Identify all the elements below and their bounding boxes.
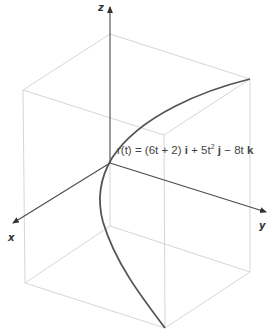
eq-term-j: 5t2 (201, 144, 215, 156)
x-axis (13, 163, 110, 223)
eq-unit-j: j (218, 144, 221, 156)
eq-minus: − (224, 144, 231, 156)
eq-term-i: (6t + 2) (145, 144, 182, 156)
y-axis-label: y (259, 220, 266, 231)
curve-equation-label: r(t) = (6t + 2) i + 5t2 j − 8t k (117, 143, 253, 156)
eq-equals: = (135, 144, 142, 156)
z-axis-label: z (97, 2, 104, 13)
eq-lhs: r(t) (117, 144, 132, 156)
space-curve-figure: z x y (0, 0, 275, 334)
x-axis-label: x (7, 232, 15, 243)
eq-plus: + (191, 144, 198, 156)
axes (13, 7, 266, 223)
bounding-box (23, 34, 250, 328)
eq-unit-i: i (185, 144, 188, 156)
y-axis (110, 163, 266, 212)
eq-unit-k: k (247, 144, 253, 156)
eq-term-k: 8t (234, 144, 244, 156)
space-curve (100, 79, 250, 328)
